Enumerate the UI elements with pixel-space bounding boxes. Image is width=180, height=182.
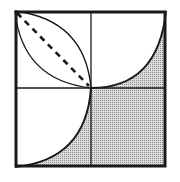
shaded-top-right-region bbox=[91, 11, 166, 88]
geometry-diagram bbox=[0, 0, 180, 182]
shaded-bottom-right-quadrant bbox=[91, 88, 166, 167]
dashed-diagonal bbox=[17, 13, 89, 86]
